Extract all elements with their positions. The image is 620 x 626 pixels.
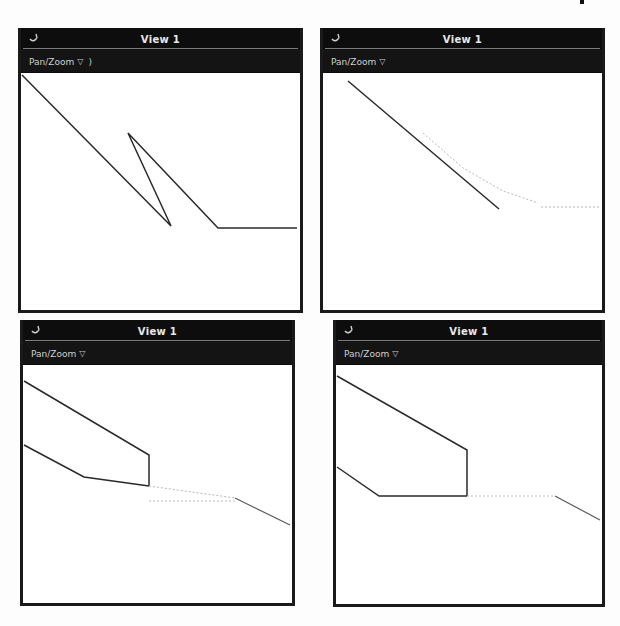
app-menu-icon[interactable] (28, 32, 40, 44)
pan-zoom-menu-button[interactable]: Pan/Zoom ▽ (344, 349, 403, 359)
view-canvas[interactable] (23, 365, 292, 603)
screen: View 1 Pan/Zoom ▽ ) View 1 Pan/Zoom ▽ (0, 0, 620, 626)
title-bar[interactable]: View 1 (323, 28, 602, 51)
pan-zoom-menu-button[interactable]: Pan/Zoom ▽ ) (29, 57, 92, 67)
window-title: View 1 (138, 326, 177, 337)
pan-zoom-menu-button[interactable]: Pan/Zoom ▽ (31, 349, 90, 359)
mode-suffix: ) (88, 57, 92, 67)
window-title: View 1 (443, 34, 482, 45)
pan-zoom-menu-button[interactable]: Pan/Zoom ▽ (331, 57, 390, 67)
mode-label: Pan/Zoom (331, 57, 376, 67)
view-window-bottom-right: View 1 Pan/Zoom ▽ (333, 320, 605, 607)
view-canvas[interactable] (336, 365, 602, 604)
window-title: View 1 (449, 326, 488, 337)
mode-label: Pan/Zoom (29, 57, 74, 67)
chevron-down-icon: ▽ (392, 349, 398, 358)
window-title: View 1 (141, 34, 180, 45)
toolbar: Pan/Zoom ▽ (23, 343, 292, 366)
view-window-bottom-left: View 1 Pan/Zoom ▽ (20, 320, 295, 606)
view-canvas[interactable] (323, 73, 602, 310)
toolbar: Pan/Zoom ▽ (323, 51, 602, 74)
app-menu-icon[interactable] (330, 32, 342, 44)
toolbar: Pan/Zoom ▽ (336, 343, 602, 366)
mode-label: Pan/Zoom (344, 349, 389, 359)
polyline-drawing (23, 365, 292, 603)
polyline-drawing (336, 365, 602, 604)
mode-label: Pan/Zoom (31, 349, 76, 359)
view-window-top-left: View 1 Pan/Zoom ▽ ) (18, 28, 303, 313)
chevron-down-icon: ▽ (79, 349, 85, 358)
title-bar[interactable]: View 1 (336, 320, 602, 343)
title-bar[interactable]: View 1 (21, 28, 300, 51)
chevron-down-icon: ▽ (77, 57, 83, 66)
toolbar: Pan/Zoom ▽ ) (21, 51, 300, 74)
app-menu-icon[interactable] (343, 324, 355, 336)
title-bar[interactable]: View 1 (23, 320, 292, 343)
polyline-drawing (323, 73, 602, 310)
app-menu-icon[interactable] (30, 324, 42, 336)
view-canvas[interactable] (21, 73, 300, 310)
view-window-top-right: View 1 Pan/Zoom ▽ (320, 28, 605, 313)
chevron-down-icon: ▽ (379, 57, 385, 66)
polyline-drawing (21, 73, 300, 310)
corner-mark (580, 0, 584, 4)
